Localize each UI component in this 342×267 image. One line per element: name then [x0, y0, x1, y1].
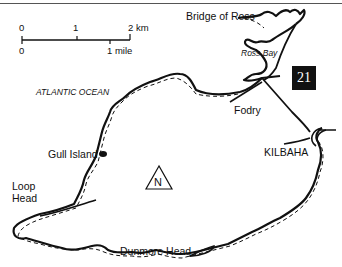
label-gull-island: Gull Island: [48, 148, 98, 160]
label-loop: Loop: [12, 180, 35, 192]
route-number-badge: 21: [292, 66, 316, 90]
label-kilbaha: KILBAHA: [264, 146, 308, 158]
scale-km-one: 1: [73, 22, 78, 33]
label-fodry: Fodry: [234, 104, 261, 116]
coastline: [14, 10, 336, 256]
gull-island-marker: [99, 151, 107, 157]
label-bridge-of-ross: Bridge of Ross: [186, 10, 255, 22]
label-atlantic-ocean: ATLANTIC OCEAN: [36, 87, 109, 97]
scale-mile-one: 1 mile: [107, 45, 132, 56]
scale-mile-zero: 0: [19, 45, 24, 56]
scale-bar: [22, 34, 130, 44]
map-drawing: [0, 0, 342, 267]
north-letter: N: [154, 176, 162, 188]
label-dunmore-head: Dunmore Head: [120, 245, 191, 257]
scale-km-two: 2 km: [128, 22, 149, 33]
label-ross-bay: Ross Bay: [241, 48, 277, 58]
scale-km-zero: 0: [19, 22, 24, 33]
label-head: Head: [12, 192, 37, 204]
